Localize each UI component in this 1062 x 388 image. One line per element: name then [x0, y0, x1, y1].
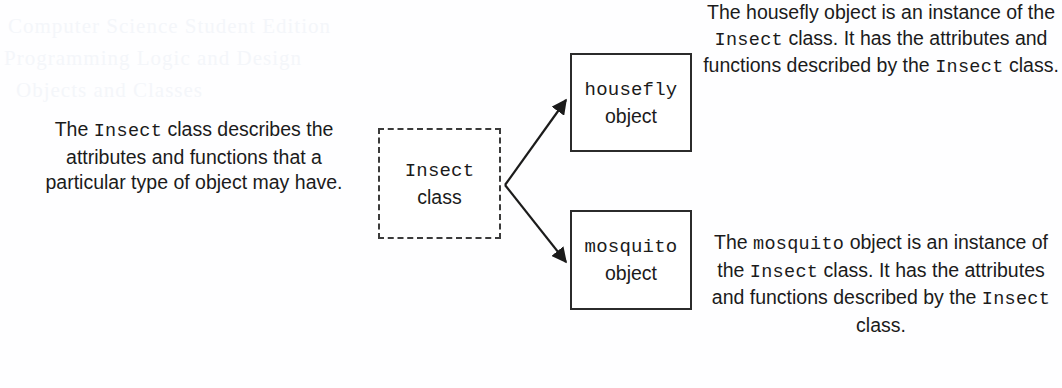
caption-text-part: class. [856, 314, 906, 336]
housefly-object-caption: The housefly object is an instance of th… [700, 0, 1062, 81]
housefly-object-box-name: housefly [585, 77, 678, 103]
mosquito-object-box-name: mosquito [585, 234, 678, 260]
code-mosquito: mosquito [753, 234, 844, 255]
mosquito-object-caption: The mosquito object is an instance of th… [700, 230, 1062, 338]
housefly-object-box-kind: object [605, 103, 657, 129]
mosquito-object-box[interactable]: mosquito object [570, 210, 692, 310]
insect-class-box-kind: class [417, 184, 461, 210]
caption-text-part: The [55, 118, 94, 140]
scan-bleed-line-3: Objects and Classes [16, 78, 1036, 103]
insect-class-caption: The Insect class describes the attribute… [24, 117, 364, 196]
insect-class-box[interactable]: Insect class [378, 128, 501, 239]
code-insect: Insect [982, 289, 1050, 310]
code-insect: Insect [94, 121, 162, 142]
code-insect: Insect [750, 262, 818, 283]
mosquito-object-box-kind: object [605, 260, 657, 286]
code-insect: Insect [715, 30, 783, 51]
caption-text-part: The [714, 231, 753, 253]
housefly-object-box[interactable]: housefly object [570, 53, 692, 152]
insect-class-box-name: Insect [405, 158, 475, 184]
caption-text-part: The housefly object is an instance of th… [707, 1, 1055, 23]
diagram-canvas: Computer Science Student Edition Program… [0, 0, 1062, 388]
code-insect: Insect [935, 57, 1003, 78]
caption-text-part: class. [1004, 54, 1059, 76]
class-to-mosquito-arrow [505, 185, 566, 262]
class-to-housefly-arrow [505, 100, 566, 185]
